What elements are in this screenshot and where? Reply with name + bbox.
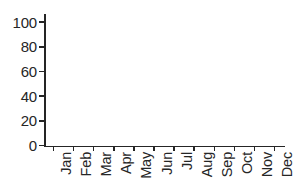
x-axis-tick: [73, 146, 75, 151]
x-axis-tick-label: May: [139, 152, 154, 179]
y-axis-tick: [39, 95, 44, 97]
x-axis-tick: [173, 146, 175, 151]
x-axis-tick: [53, 146, 55, 151]
y-axis-tick-label: 60: [1, 64, 37, 79]
x-axis-tick-label: Apr: [119, 152, 134, 174]
x-axis-tick-label: Feb: [79, 152, 94, 176]
x-axis-tick: [153, 146, 155, 151]
y-axis-tick: [39, 21, 44, 23]
x-axis-tick: [133, 146, 135, 151]
y-axis-tick-label: 40: [1, 89, 37, 104]
x-axis-tick: [274, 146, 276, 151]
x-axis-tick: [254, 146, 256, 151]
plot-area: [45, 14, 285, 146]
y-axis-tick-label: 0: [1, 138, 37, 153]
x-axis-tick: [93, 146, 95, 151]
chart-figure: 020406080100 JanFebMarAprMayJunJulAugSep…: [0, 0, 293, 190]
x-axis-tick-label: Sep: [220, 152, 235, 177]
x-axis-tick-label: Jun: [160, 152, 175, 175]
y-axis-tick-labels: 020406080100: [0, 0, 37, 190]
y-axis-tick-label: 80: [1, 39, 37, 54]
y-axis-tick: [39, 120, 44, 122]
x-axis-tick-label: Nov: [260, 152, 275, 177]
x-axis-tick-label: Aug: [200, 152, 215, 177]
x-axis-tick: [214, 146, 216, 151]
x-axis-tick-label: Jan: [59, 152, 74, 175]
x-axis-line: [44, 146, 285, 148]
y-axis-tick: [39, 46, 44, 48]
y-axis-tick: [39, 71, 44, 73]
x-axis-tick-label: Oct: [240, 152, 255, 174]
y-axis-line: [44, 14, 46, 147]
x-axis-tick: [193, 146, 195, 151]
x-axis-tick: [234, 146, 236, 151]
y-axis-tick-label: 20: [1, 113, 37, 128]
x-axis-tick-label: Dec: [280, 152, 293, 177]
x-axis-tick: [113, 146, 115, 151]
y-axis-tick-label: 100: [1, 15, 37, 30]
x-axis-tick-label: Mar: [99, 152, 114, 176]
x-axis-tick-label: Jul: [180, 152, 195, 170]
